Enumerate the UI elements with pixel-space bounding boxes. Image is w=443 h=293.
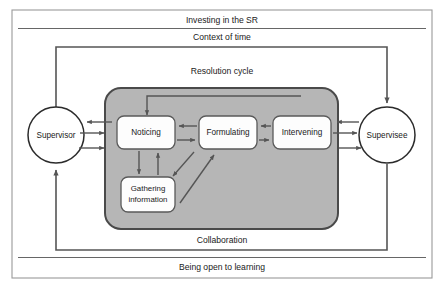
node-gathering-information-label-line1: Gathering	[131, 184, 166, 193]
node-intervening-label: Intervening	[282, 128, 323, 137]
actor-supervisee-label: Supervisee	[367, 131, 408, 140]
label-resolution-cycle: Resolution cycle	[191, 66, 254, 76]
node-noticing-label: Noticing	[131, 128, 161, 137]
supervision-resolution-cycle-diagram: Investing in the SR Context of time Reso…	[0, 0, 443, 293]
node-gathering-information-label-line2: information	[128, 195, 167, 204]
label-collaboration: Collaboration	[197, 235, 248, 245]
label-investing-in-the-sr: Investing in the SR	[186, 15, 258, 25]
node-formulating-label: Formulating	[206, 128, 250, 137]
label-being-open-to-learning: Being open to learning	[179, 262, 265, 272]
label-context-of-time: Context of time	[193, 32, 251, 42]
diagram-canvas: Investing in the SR Context of time Reso…	[0, 0, 443, 293]
actor-supervisor-label: Supervisor	[36, 131, 75, 140]
